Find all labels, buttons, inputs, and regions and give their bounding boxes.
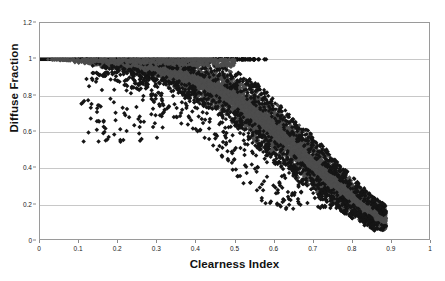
scatter-plot-canvas <box>40 23 430 240</box>
y-axis-title: Diffuse Fraction <box>8 8 20 168</box>
x-axis-tick-mark <box>313 240 314 243</box>
y-axis-tick-mark <box>33 203 36 204</box>
x-axis-tick-mark <box>352 240 353 243</box>
x-axis-tick-mark <box>274 240 275 243</box>
x-axis-tick-label: 0.4 <box>191 245 200 252</box>
x-axis-tick-mark <box>78 240 79 243</box>
x-axis-title: Clearness Index <box>39 258 430 270</box>
x-axis-tick-label: 0.6 <box>269 245 278 252</box>
x-axis-tick-mark <box>156 240 157 243</box>
x-axis-tick-mark <box>391 240 392 243</box>
x-axis-tick-mark <box>39 240 40 243</box>
x-axis-tick-label: 0.7 <box>308 245 317 252</box>
x-axis-tick-label: 1 <box>428 245 432 252</box>
y-axis-tick-mark <box>33 167 36 168</box>
y-axis-tick-mark <box>33 94 36 95</box>
x-axis-tick-mark <box>430 240 431 243</box>
x-axis-tick-label: 0.8 <box>347 245 356 252</box>
y-axis-tick-label: 0.4 <box>23 164 32 171</box>
x-axis-tick-label: 0 <box>37 245 41 252</box>
x-axis-tick-mark <box>117 240 118 243</box>
y-axis-tick-mark <box>33 22 36 23</box>
chart-figure: 00.20.40.60.811.2 Diffuse Fraction 00.10… <box>0 0 445 281</box>
plot-area <box>39 22 430 240</box>
y-axis-tick-label: 0 <box>28 237 32 244</box>
y-axis-tick-label: 0.2 <box>23 200 32 207</box>
y-axis-tick-mark <box>33 58 36 59</box>
x-axis-tick-mark <box>195 240 196 243</box>
y-axis-tick-label: 1.2 <box>23 19 32 26</box>
y-axis-tick-mark <box>33 131 36 132</box>
x-axis-tick-label: 0.2 <box>113 245 122 252</box>
x-axis-tick-label: 0.3 <box>152 245 161 252</box>
x-axis-tick-mark <box>235 240 236 243</box>
y-axis-tick-label: 1 <box>28 55 32 62</box>
y-axis-tick-label: 0.8 <box>23 91 32 98</box>
x-axis-tick-label: 0.5 <box>230 245 239 252</box>
y-axis-tick-mark <box>33 240 36 241</box>
x-axis-tick-label: 0.9 <box>386 245 395 252</box>
x-axis-tick-label: 0.1 <box>74 245 83 252</box>
y-axis-tick-label: 0.6 <box>23 128 32 135</box>
x-axis-tick-labels: 00.10.20.30.40.50.60.70.80.91 <box>39 243 430 257</box>
